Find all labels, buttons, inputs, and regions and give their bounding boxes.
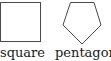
square-label: square [0,46,45,59]
pentagon-shape [61,1,103,45]
pentagon-label: pentagon [55,46,111,59]
square-shape [0,1,42,43]
